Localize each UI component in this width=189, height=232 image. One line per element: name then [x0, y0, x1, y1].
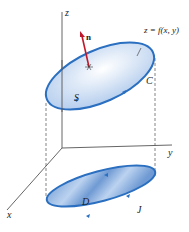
region-label: D [82, 197, 89, 207]
surface-label: S [74, 93, 79, 103]
normal-vector-label: n [86, 33, 91, 42]
surface-equation-label: z = f(x, y) [144, 26, 179, 35]
x-axis-label: x [7, 210, 11, 220]
surface-s [36, 29, 163, 124]
boundary-label: J [137, 205, 141, 215]
y-axis-label: y [168, 148, 172, 158]
curve-label: C [146, 76, 153, 86]
z-axis-label: z [65, 8, 69, 18]
region-d [43, 157, 159, 218]
